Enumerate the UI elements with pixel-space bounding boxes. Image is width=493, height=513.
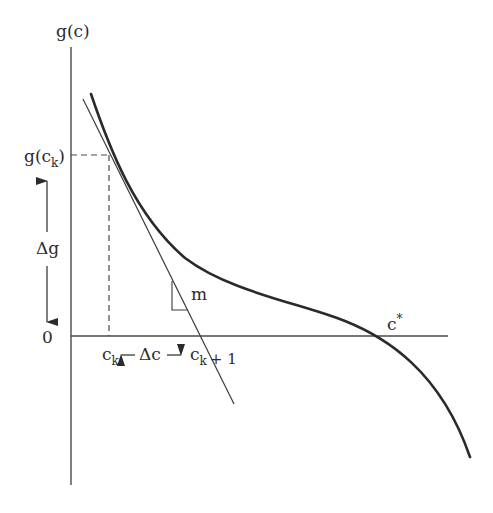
slope-label: m <box>191 284 207 304</box>
y-axis-label: g(c) <box>56 21 90 41</box>
ck-label: ck <box>102 344 120 368</box>
root-label: c* <box>387 312 403 334</box>
ck-plus-1-label: ck+ 1 <box>190 344 237 368</box>
delta-c-label: Δc <box>139 344 161 364</box>
newton-method-diagram: g(c) g(ck) Δg 0 ck Δc ck+ 1 m c* <box>0 0 493 513</box>
delta-g-label: Δg <box>36 238 59 258</box>
origin-zero-label: 0 <box>42 327 53 347</box>
g-ck-label: g(ck) <box>24 146 65 170</box>
function-curve <box>91 94 470 457</box>
